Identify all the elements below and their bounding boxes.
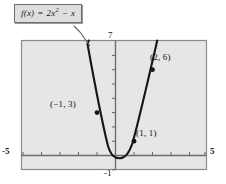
graph-figure: f(x) = 2x2 − x -5 5 7 -1 (2, 6) (−1, 3) … (0, 0, 226, 184)
callout-equals: = (37, 8, 44, 18)
point-label-2-6: (2, 6) (150, 52, 171, 62)
y-axis-max-label: 7 (108, 30, 113, 40)
data-point-1-1 (132, 139, 137, 144)
x-axis-min-label: -5 (2, 146, 10, 156)
point-label-neg1-3: (−1, 3) (50, 99, 76, 109)
point-label-1-1: (1, 1) (136, 128, 157, 138)
x-axis-max-label: 5 (210, 146, 215, 156)
callout-minus: − (61, 8, 68, 18)
data-point-neg1-3 (95, 110, 100, 115)
callout-exponent: 2 (55, 6, 58, 13)
plot-canvas (0, 0, 226, 184)
data-point-2-6 (150, 67, 155, 72)
callout-term: x (71, 8, 75, 18)
callout-fn-name: f(x) (21, 8, 34, 18)
x-axis-origin-label: -1 (104, 168, 112, 178)
function-callout-box: f(x) = 2x2 − x (14, 4, 82, 23)
